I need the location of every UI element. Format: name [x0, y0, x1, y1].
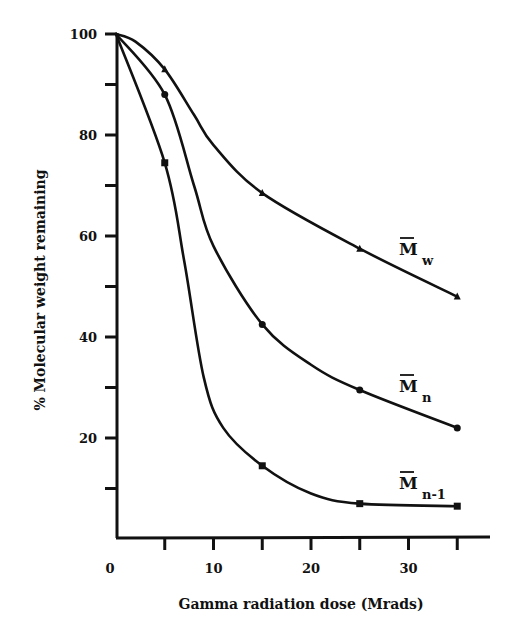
series-labels: MwMnMn-1 [399, 238, 446, 502]
x-tick-label: 20 [302, 561, 320, 576]
data-curves [116, 34, 457, 506]
data-markers [161, 65, 461, 509]
x-tick-label: 10 [204, 561, 222, 576]
y-tick-label: 100 [70, 27, 97, 42]
square-marker [161, 159, 168, 166]
x-axis-title: Gamma radiation dose (Mrads) [178, 596, 423, 612]
circle-marker [356, 387, 363, 394]
series-label-sub: w [421, 253, 434, 268]
circle-marker [259, 321, 266, 328]
circle-marker [454, 424, 461, 431]
y-tick-label: 40 [79, 330, 97, 345]
curve-mn-1 [116, 34, 457, 506]
series-label-mn-1: Mn-1 [399, 472, 446, 502]
y-axis-title: % Molecular weight remaining [32, 169, 48, 410]
circle-marker [161, 91, 168, 98]
series-label-main: M [399, 239, 418, 259]
square-marker [454, 503, 461, 510]
series-label-main: M [399, 473, 418, 493]
square-marker [259, 462, 266, 469]
series-label-mw: Mw [399, 238, 434, 268]
y-tick-label: 20 [79, 431, 97, 446]
y-tick-label: 60 [79, 229, 97, 244]
series-label-mn: Mn [399, 375, 432, 405]
series-label-sub: n-1 [422, 487, 446, 502]
x-axis-line [116, 537, 490, 538]
molecular-weight-chart: 204060801000102030 MwMnMn-1 % Molecular … [0, 0, 516, 638]
square-marker [356, 500, 363, 507]
y-tick-label: 80 [79, 128, 97, 143]
x-tick-label: 30 [399, 561, 417, 576]
x-tick-label: 0 [105, 561, 114, 576]
series-label-sub: n [422, 390, 432, 405]
series-label-main: M [399, 376, 418, 396]
